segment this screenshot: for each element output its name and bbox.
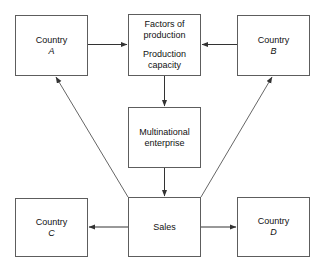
node-sales-label: Sales xyxy=(153,222,176,233)
node-factors-line-2: production xyxy=(143,30,185,41)
edge-sales-to-country-a xyxy=(56,77,128,197)
node-factors-of-production[interactable]: Factors of production Production capacit… xyxy=(128,14,201,76)
node-country-b-letter: B xyxy=(270,46,276,57)
diagram-canvas: Country A Factors of production Producti… xyxy=(0,0,324,273)
node-country-a[interactable]: Country A xyxy=(15,15,88,76)
node-mne-line-2: enterprise xyxy=(144,138,184,149)
node-country-d-letter: D xyxy=(270,227,277,238)
node-country-d[interactable]: Country D xyxy=(237,197,310,257)
node-country-c-letter: C xyxy=(48,228,55,239)
node-country-b-label: Country xyxy=(258,35,290,46)
node-country-a-label: Country xyxy=(36,35,68,46)
node-country-a-letter: A xyxy=(48,46,54,57)
node-country-c-label: Country xyxy=(36,217,68,228)
node-factors-group-2: Production capacity xyxy=(143,49,186,71)
node-country-b[interactable]: Country B xyxy=(237,15,310,76)
node-factors-line-4: capacity xyxy=(143,60,186,71)
node-country-d-label: Country xyxy=(258,216,290,227)
node-sales[interactable]: Sales xyxy=(128,197,201,257)
node-country-c[interactable]: Country C xyxy=(15,198,88,257)
node-factors-group-1: Factors of production xyxy=(143,19,185,41)
node-multinational-enterprise[interactable]: Multinational enterprise xyxy=(128,107,201,168)
edge-sales-to-country-b xyxy=(201,77,272,197)
node-mne-line-1: Multinational xyxy=(139,127,190,138)
node-factors-line-3: Production xyxy=(143,49,186,60)
node-factors-line-1: Factors of xyxy=(143,19,185,30)
